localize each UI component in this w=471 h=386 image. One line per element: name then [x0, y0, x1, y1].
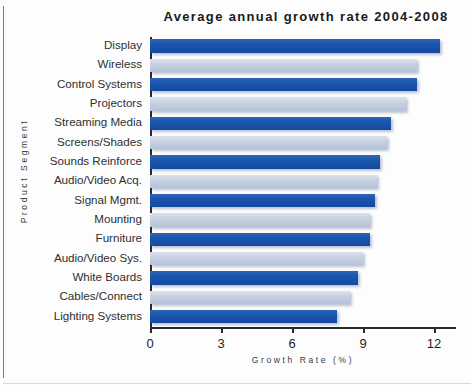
bar-row	[150, 250, 455, 269]
bar-row	[150, 192, 455, 211]
x-axis-tick-label: 6	[288, 336, 295, 351]
category-label: Wireless	[98, 57, 142, 70]
x-axis-tick	[292, 327, 294, 333]
bar-row	[150, 308, 455, 327]
category-label: Audio/Video Sys.	[54, 251, 142, 264]
bar-projectors	[150, 97, 406, 110]
bar-row	[150, 76, 455, 95]
bar-row	[150, 37, 455, 56]
bar-row	[150, 114, 455, 133]
category-label: Display	[104, 38, 142, 51]
x-axis-tick-label: 9	[359, 336, 366, 351]
bar-signal-mgmt	[150, 194, 375, 207]
bar-row	[150, 95, 455, 114]
bar-row	[150, 153, 455, 172]
x-axis-title: Growth Rate (%)	[150, 355, 456, 365]
bar-lighting-systems	[150, 310, 337, 323]
bar-row	[150, 269, 455, 288]
bar-audio-video-sys	[150, 252, 363, 265]
page-edge-rule-bottom	[3, 383, 471, 384]
category-label: Audio/Video Acq.	[54, 173, 142, 186]
bar-sounds-reinforce	[150, 155, 380, 168]
x-axis-tick	[221, 327, 223, 333]
bar-wireless	[150, 59, 417, 72]
category-label: Lighting Systems	[54, 309, 142, 322]
chart-title: Average annual growth rate 2004-2008	[150, 9, 462, 24]
category-label: Projectors	[90, 96, 142, 109]
bar-row	[150, 288, 455, 307]
plot-area	[150, 37, 455, 327]
x-axis-line	[150, 327, 456, 329]
bar-mounting	[150, 213, 370, 226]
bar-display	[150, 39, 440, 52]
bar-white-boards	[150, 271, 358, 284]
bar-cables-connect	[150, 291, 350, 304]
x-axis-tick	[434, 327, 436, 333]
bar-row	[150, 134, 455, 153]
x-axis-tick	[150, 327, 152, 333]
category-label: Sounds Reinforce	[50, 154, 142, 167]
x-axis-tick	[363, 327, 365, 333]
category-label: Signal Mgmt.	[74, 193, 142, 206]
bar-furniture	[150, 233, 370, 246]
bar-row	[150, 230, 455, 249]
category-label: Cables/Connect	[60, 289, 143, 302]
category-label: Screens/Shades	[57, 135, 142, 148]
category-label-column: DisplayWirelessControl SystemsProjectors…	[0, 37, 145, 327]
bar-control-systems	[150, 78, 417, 91]
x-axis-tick-label: 0	[146, 336, 153, 351]
category-label: Mounting	[94, 212, 142, 225]
category-label: Control Systems	[57, 77, 142, 90]
bar-row	[150, 56, 455, 75]
chart-figure: Average annual growth rate 2004-2008 Pro…	[0, 0, 471, 386]
category-label: Furniture	[96, 231, 142, 244]
bar-audio-video-acq	[150, 175, 377, 188]
category-label: White Boards	[72, 270, 142, 283]
bar-row	[150, 172, 455, 191]
x-axis-tick-label: 12	[427, 336, 441, 351]
bar-screens-shades	[150, 136, 387, 149]
bar-streaming-media	[150, 117, 391, 130]
x-axis-tick-label: 3	[217, 336, 224, 351]
bar-row	[150, 211, 455, 230]
category-label: Streaming Media	[54, 115, 142, 128]
